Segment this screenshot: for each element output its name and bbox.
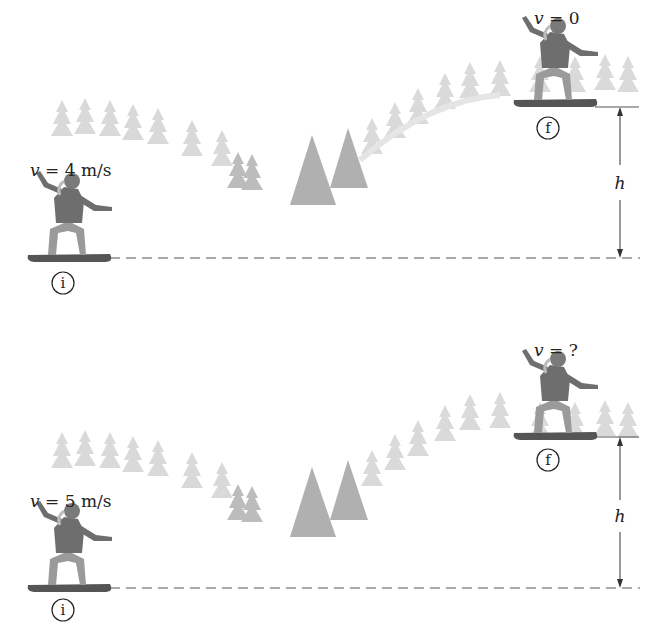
velocity-label-initial: v = 5 m/s (30, 491, 111, 511)
height-label: h (615, 173, 626, 193)
background-trees (51, 54, 639, 205)
velocity-label-initial: v = 4 m/s (30, 160, 111, 180)
snowboarder-initial (28, 171, 112, 262)
state-marker-initial: i (52, 272, 74, 294)
background-trees (51, 392, 639, 537)
panel-bottom: v = 5 m/s i v = ? f h (28, 340, 640, 621)
panel-top: v = 4 m/s i v = 0 f h (28, 8, 640, 294)
snowboarder-initial (28, 501, 112, 592)
svg-text:f: f (545, 451, 552, 469)
diagram-canvas: v = 4 m/s i v = 0 f h (0, 0, 659, 638)
state-marker-final: f (537, 117, 559, 139)
snowboarder-final (514, 349, 598, 440)
velocity-label-final: v = ? (534, 340, 578, 360)
velocity-label-final: v = 0 (534, 8, 579, 28)
height-label: h (615, 506, 626, 526)
svg-text:i: i (61, 601, 66, 619)
svg-text:f: f (545, 119, 552, 137)
snowboarder-final (514, 16, 598, 107)
state-marker-final: f (537, 449, 559, 471)
state-marker-initial: i (52, 599, 74, 621)
svg-text:i: i (61, 274, 66, 292)
